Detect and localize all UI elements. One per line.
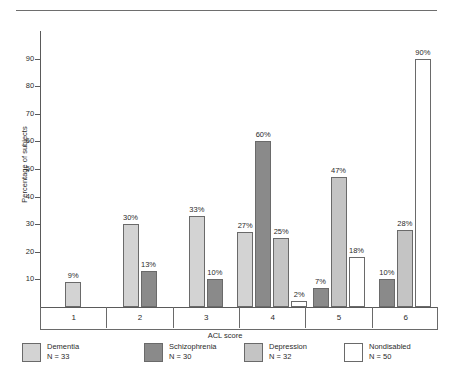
bar-value-label: 25% (267, 228, 295, 236)
y-axis-tick-label: 10 (18, 275, 34, 283)
bar-dementia-acl-4 (237, 232, 253, 307)
legend-series-name: Dementia (47, 342, 79, 351)
bar-value-label: 47% (325, 167, 353, 175)
bar-value-label: 2% (285, 291, 313, 299)
bar-nondisabled-acl-5 (349, 257, 365, 307)
legend-swatch-nondisabled (344, 343, 363, 362)
bar-value-label: 18% (343, 247, 371, 255)
y-axis-tick (35, 114, 40, 115)
bar-value-label: 10% (201, 269, 229, 277)
bar-dementia-acl-1 (65, 282, 81, 307)
y-axis-tick (35, 252, 40, 253)
legend-swatch-schizophrenia (144, 343, 163, 362)
y-axis-tick (35, 197, 40, 198)
bar-chart-plot-area: 102030405060708090 Percentage of subject… (0, 0, 450, 377)
bar-value-label: 33% (183, 206, 211, 214)
legend-label-schizophrenia: SchizophreniaN = 30 (169, 342, 217, 362)
legend-label-dementia: DementiaN = 33 (47, 342, 79, 362)
legend-series-name: Schizophrenia (169, 342, 217, 351)
bar-value-label: 13% (135, 261, 163, 269)
y-axis-tick (35, 86, 40, 87)
bar-value-label: 90% (409, 49, 437, 57)
y-axis-tick (35, 169, 40, 170)
bar-depression-acl-6 (397, 230, 413, 307)
x-axis-category-4: 4 (240, 307, 306, 328)
legend-series-name: Nondisabled (369, 342, 411, 351)
legend-series-n: N = 33 (47, 352, 79, 362)
y-axis-tick (35, 224, 40, 225)
y-axis-tick-label: 80 (18, 82, 34, 90)
x-axis-category-6: 6 (373, 307, 439, 328)
legend-series-n: N = 50 (369, 352, 411, 362)
bar-schizophrenia-acl-5 (313, 288, 329, 307)
figure: 102030405060708090 Percentage of subject… (0, 0, 450, 377)
bar-schizophrenia-acl-4 (255, 141, 271, 307)
legend-series-n: N = 32 (269, 352, 307, 362)
x-axis-category-1: 1 (41, 307, 107, 328)
y-axis-tick (35, 59, 40, 60)
bar-value-label: 30% (117, 214, 145, 222)
x-axis-category-2: 2 (107, 307, 173, 328)
bar-dementia-acl-3 (189, 216, 205, 307)
bar-nondisabled-acl-6 (415, 59, 431, 307)
legend-label-nondisabled: NondisabledN = 50 (369, 342, 411, 362)
bar-schizophrenia-acl-2 (141, 271, 157, 307)
x-axis-category-5: 5 (306, 307, 372, 328)
bar-value-label: 9% (59, 272, 87, 280)
y-axis-tick-label: 20 (18, 248, 34, 256)
chart-legend: DementiaN = 33SchizophreniaN = 30Depress… (22, 343, 432, 369)
legend-swatch-depression (244, 343, 263, 362)
legend-label-depression: DepressionN = 32 (269, 342, 307, 362)
bar-depression-acl-5 (331, 177, 347, 307)
bar-schizophrenia-acl-3 (207, 279, 223, 307)
y-axis-tick-label: 90 (18, 55, 34, 63)
x-axis-category-3: 3 (174, 307, 240, 328)
bar-value-label: 60% (249, 131, 277, 139)
y-axis-line (40, 31, 41, 307)
legend-series-name: Depression (269, 342, 307, 351)
legend-series-n: N = 30 (169, 352, 217, 362)
x-axis-category-band: 123456 (40, 307, 438, 330)
x-axis-label: ACL score (0, 331, 450, 340)
y-axis-label: Percentage of subjects (20, 95, 29, 235)
legend-swatch-dementia (22, 343, 41, 362)
y-axis-tick (35, 279, 40, 280)
bar-schizophrenia-acl-6 (379, 279, 395, 307)
y-axis-tick (35, 141, 40, 142)
